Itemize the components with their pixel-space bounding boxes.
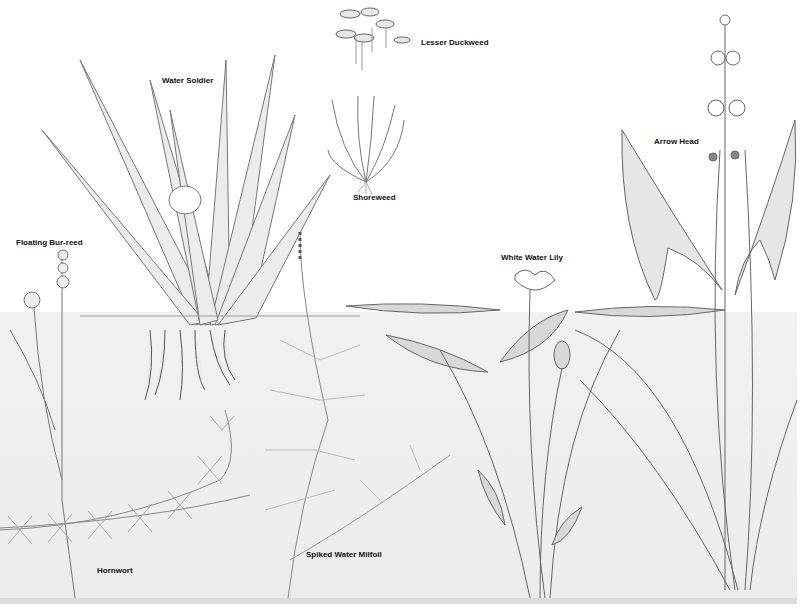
hornwort-drawing bbox=[0, 410, 250, 544]
label-white-water-lily: White Water Lily bbox=[501, 253, 563, 262]
label-water-soldier: Water Soldier bbox=[162, 76, 213, 85]
spiked-water-milfoil-drawing bbox=[265, 232, 450, 598]
water-soldier-drawing bbox=[42, 55, 360, 400]
pond-plants-illustration: Lesser Duckweed Water Soldier Shoreweed … bbox=[0, 0, 808, 610]
white-water-lily-drawing bbox=[346, 270, 725, 598]
lesser-duckweed-drawing bbox=[336, 8, 410, 70]
label-lesser-duckweed: Lesser Duckweed bbox=[421, 38, 489, 47]
label-spiked-water-milfoil: Spiked Water Milfoil bbox=[306, 550, 382, 559]
label-shoreweed: Shoreweed bbox=[353, 193, 396, 202]
floating-bur-reed-drawing bbox=[10, 250, 75, 598]
label-floating-bur-reed: Floating Bur-reed bbox=[16, 238, 83, 247]
label-hornwort: Hornwort bbox=[97, 566, 133, 575]
label-arrow-head: Arrow Head bbox=[654, 137, 699, 146]
plant-drawings bbox=[0, 0, 808, 610]
shoreweed-drawing bbox=[328, 96, 404, 194]
arrow-head-drawing bbox=[575, 15, 797, 590]
